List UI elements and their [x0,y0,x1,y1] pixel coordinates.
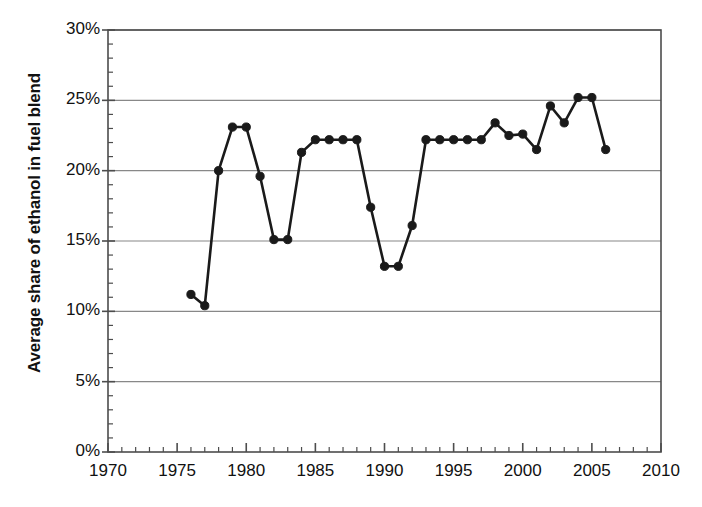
data-point-marker [284,235,292,243]
data-point-marker [228,123,236,131]
data-point-marker [311,136,319,144]
y-axis-tick-label: 20% [38,160,100,180]
data-point-marker [463,136,471,144]
chart-figure: Average share of ethanol in fuel blend 0… [0,0,702,507]
data-point-marker [532,145,540,153]
data-point-marker [187,290,195,298]
data-point-marker [339,136,347,144]
data-point-marker [367,203,375,211]
x-axis-tick-label: 1990 [350,461,420,481]
data-point-marker [519,130,527,138]
y-axis-tick-label: 30% [38,19,100,39]
data-point-marker [546,102,554,110]
x-axis-tick-label: 1985 [280,461,350,481]
data-point-marker [436,136,444,144]
x-axis-tick-label: 1975 [142,461,212,481]
data-point-marker [394,262,402,270]
data-point-marker [450,136,458,144]
data-point-marker [574,93,582,101]
x-axis-tick-label: 2005 [557,461,627,481]
data-point-marker [353,136,361,144]
data-point-marker [201,302,209,310]
data-point-marker [505,131,513,139]
data-point-marker [408,221,416,229]
x-axis-tick-label: 1980 [211,461,281,481]
data-point-marker [380,262,388,270]
line-chart-plot [0,0,702,507]
data-series-line [191,98,606,306]
data-point-marker [297,148,305,156]
data-point-marker [242,123,250,131]
x-axis-tick-label: 1970 [73,461,143,481]
data-point-marker [422,136,430,144]
x-axis-tick-label: 2010 [626,461,696,481]
x-axis-tick-label: 2000 [488,461,558,481]
x-axis-tick-label: 1995 [419,461,489,481]
y-axis-tick-label: 0% [38,441,100,461]
y-axis-tick-label: 15% [38,230,100,250]
data-point-marker [477,136,485,144]
data-point-marker [602,145,610,153]
data-point-marker [588,93,596,101]
y-axis-tick-label: 10% [38,300,100,320]
data-point-marker [256,172,264,180]
data-point-marker [491,119,499,127]
y-axis-tick-label: 5% [38,371,100,391]
data-point-marker [560,119,568,127]
data-point-marker [270,235,278,243]
y-axis-tick-label: 25% [38,89,100,109]
data-point-marker [215,167,223,175]
data-point-marker [325,136,333,144]
